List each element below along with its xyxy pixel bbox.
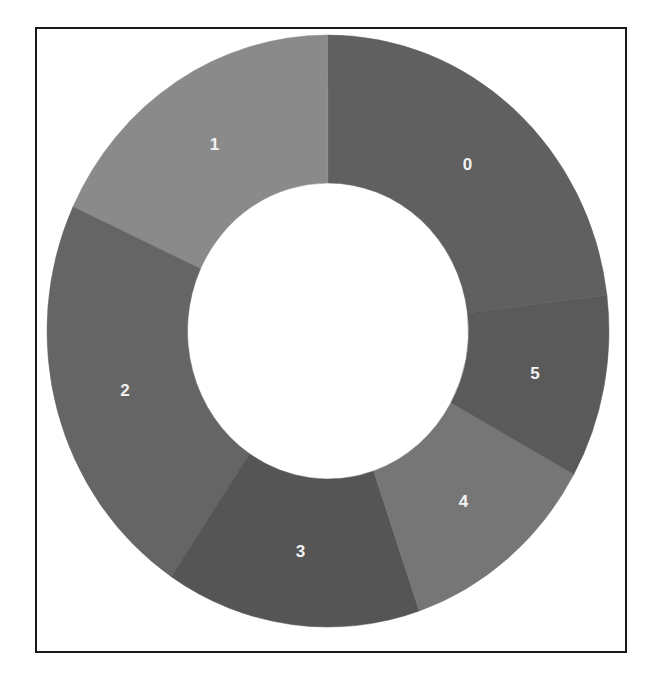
slice-label-3: 3 xyxy=(296,542,305,561)
slice-label-2: 2 xyxy=(120,381,129,400)
slice-label-0: 0 xyxy=(463,155,472,174)
slice-label-1: 1 xyxy=(210,135,219,154)
slice-label-4: 4 xyxy=(459,492,469,511)
slice-label-5: 5 xyxy=(530,364,539,383)
donut-chart: 012345 xyxy=(0,0,663,685)
donut-slices xyxy=(47,35,609,627)
